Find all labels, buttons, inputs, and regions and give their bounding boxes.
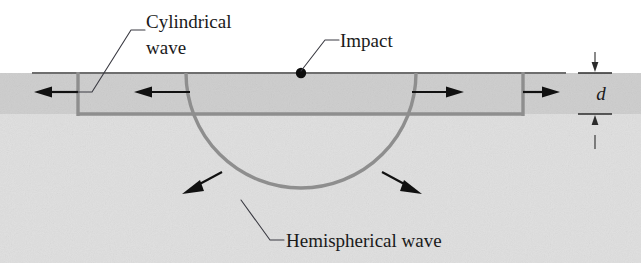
- cylindrical-wave-label-line2: wave: [146, 37, 186, 58]
- impact-dot: [296, 68, 306, 78]
- hemispherical-wave-label: Hemispherical wave: [286, 230, 442, 251]
- cylindrical-wave-label-line1: Cylindrical: [146, 11, 231, 32]
- diagram-canvas: d Cylindrical wave Impact Hemispherical …: [0, 0, 641, 264]
- impact-label: Impact: [340, 30, 393, 51]
- leader-impact: [301, 40, 339, 71]
- impact-wave-diagram: d Cylindrical wave Impact Hemispherical …: [0, 0, 641, 264]
- dimension-arrowhead-top: [592, 62, 599, 72]
- thickness-label: d: [596, 83, 606, 104]
- callout-impact: Impact: [301, 30, 393, 71]
